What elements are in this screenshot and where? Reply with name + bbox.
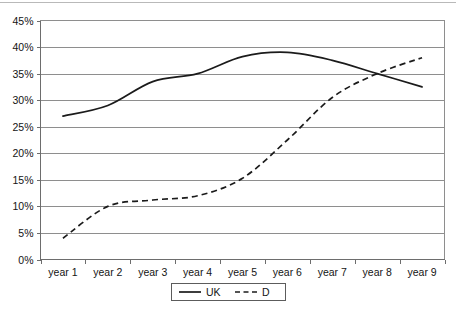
- x-tick-label: year 6: [273, 266, 302, 278]
- y-tick-label: 25%: [12, 121, 33, 133]
- x-tick-label: year 5: [228, 266, 257, 278]
- y-tick-label: 30%: [12, 94, 33, 106]
- legend-label-uk: UK: [206, 286, 221, 298]
- series-line-uk: [63, 52, 422, 116]
- x-tick-label: year 1: [48, 266, 77, 278]
- x-tick-label: year 9: [407, 266, 436, 278]
- y-tick-label: 45%: [12, 15, 33, 27]
- y-tick-label: 0%: [18, 254, 33, 266]
- y-tick-label: 20%: [12, 147, 33, 159]
- y-axis-tick-marks: [37, 22, 41, 261]
- y-tick-label: 5%: [18, 227, 33, 239]
- x-tick-label: year 3: [138, 266, 167, 278]
- x-axis-tick-marks: [42, 260, 446, 264]
- series-line-d: [63, 58, 422, 239]
- y-tick-label: 40%: [12, 41, 33, 53]
- line-chart-figure: 0%5%10%15%20%25%30%35%40%45% year 1year …: [0, 0, 456, 310]
- y-tick-label: 35%: [12, 68, 33, 80]
- x-tick-label: year 2: [93, 266, 122, 278]
- legend-label-d: D: [262, 286, 270, 298]
- x-axis-tick-labels: year 1year 2year 3year 4year 5year 6year…: [48, 266, 436, 278]
- chart-legend: UK D: [172, 284, 286, 301]
- chart-canvas: 0%5%10%15%20%25%30%35%40%45% year 1year …: [0, 0, 456, 310]
- y-axis-tick-labels: 0%5%10%15%20%25%30%35%40%45%: [12, 15, 33, 266]
- x-tick-label: year 4: [183, 266, 212, 278]
- x-tick-label: year 8: [363, 266, 392, 278]
- y-tick-label: 15%: [12, 174, 33, 186]
- x-tick-label: year 7: [318, 266, 347, 278]
- y-tick-label: 10%: [12, 200, 33, 212]
